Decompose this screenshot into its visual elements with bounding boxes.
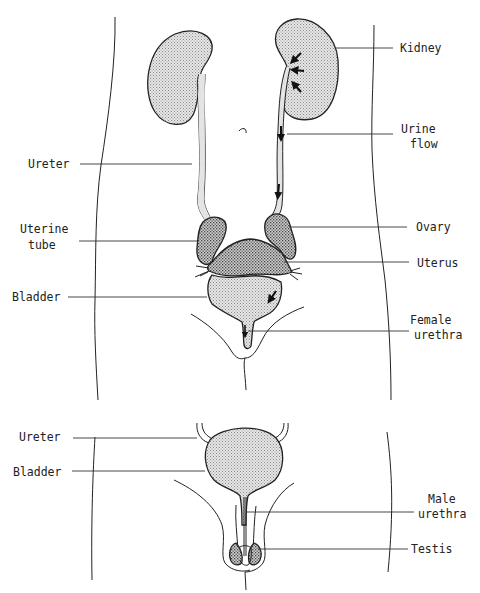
female-figure bbox=[95, 17, 391, 400]
midline-male bbox=[245, 572, 246, 590]
label-uterus: Uterus bbox=[417, 256, 459, 270]
label-ovary: Ovary bbox=[416, 220, 451, 234]
label-female-urethra: Female bbox=[410, 313, 452, 327]
ureter-left-male-inner bbox=[202, 423, 211, 438]
body-outline-right-male bbox=[387, 432, 392, 572]
ligament-right bbox=[290, 268, 302, 280]
body-outline-left bbox=[95, 17, 115, 400]
urinary-system-diagram: Kidney Urine flow Ureter Uterine tube Ov… bbox=[0, 0, 480, 593]
label-ureter: Ureter bbox=[28, 157, 70, 171]
ligament-left bbox=[195, 266, 209, 277]
navel-mark bbox=[239, 129, 246, 133]
body-outline-left-male bbox=[92, 437, 95, 580]
label-female-urethra-2: urethra bbox=[414, 328, 462, 342]
pelvis-line-left bbox=[191, 314, 245, 359]
label-urine-flow-2: flow bbox=[410, 137, 438, 151]
body-outline-right bbox=[372, 25, 391, 400]
ureter-right-male-inner bbox=[275, 423, 284, 438]
label-urine-flow: Urine bbox=[401, 122, 436, 136]
bladder-female bbox=[208, 275, 282, 349]
label-testis: Testis bbox=[411, 542, 453, 556]
label-male-urethra: Male bbox=[428, 492, 456, 506]
label-male-urethra-2: urethra bbox=[418, 507, 466, 521]
arrow-icon bbox=[278, 184, 279, 196]
male-figure bbox=[92, 423, 392, 590]
label-bladder-male: Bladder bbox=[13, 465, 62, 479]
label-uterine-tube: Uterine bbox=[20, 222, 69, 236]
label-kidney: Kidney bbox=[400, 41, 442, 55]
ureter-left-inner bbox=[204, 74, 212, 222]
ureter-left-fill bbox=[198, 74, 212, 222]
arrow-icon bbox=[294, 70, 304, 71]
midline bbox=[244, 358, 246, 390]
label-uterine-tube-2: tube bbox=[28, 238, 56, 252]
label-bladder: Bladder bbox=[12, 290, 61, 304]
label-ureter-male: Ureter bbox=[19, 430, 61, 444]
ureter-left-male bbox=[197, 423, 209, 443]
